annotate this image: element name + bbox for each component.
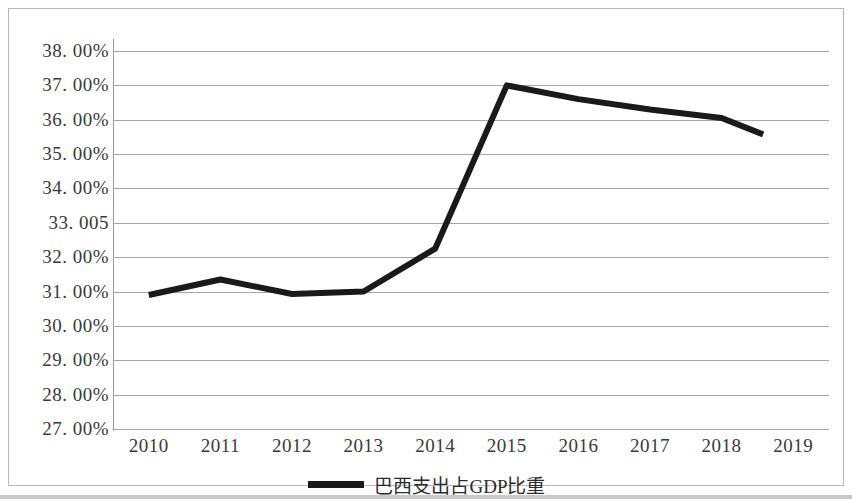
y-axis-tick-label: 34. 00% (42, 177, 109, 199)
y-axis-tick-label: 29. 00% (42, 349, 109, 371)
chart-legend: 巴西支出占GDP比重 (9, 471, 845, 498)
x-axis-tick-label: 2019 (773, 435, 813, 457)
y-axis-tick-label: 27. 00% (42, 418, 109, 440)
x-axis-tick-label: 2014 (415, 435, 455, 457)
y-axis-labels: 38. 00%37. 00%36. 00%35. 00%34. 00%33. 0… (9, 51, 109, 429)
y-axis-tick-label: 37. 00% (42, 74, 109, 96)
y-axis-tick-label: 33. 005 (49, 212, 110, 234)
y-axis-tick-label: 28. 00% (42, 384, 109, 406)
y-axis-tick-label: 38. 00% (42, 40, 109, 62)
legend-line-swatch (308, 481, 364, 488)
x-axis-tick-label: 2011 (201, 435, 240, 457)
x-axis-tick-label: 2017 (630, 435, 670, 457)
y-axis-tick-label: 36. 00% (42, 109, 109, 131)
chart-screenshot: 38. 00%37. 00%36. 00%35. 00%34. 00%33. 0… (0, 0, 852, 499)
x-axis-tick-label: 2018 (702, 435, 742, 457)
gridline (113, 429, 829, 430)
x-axis-tick-label: 2016 (558, 435, 598, 457)
x-axis-tick-label: 2013 (344, 435, 384, 457)
chart-frame: 38. 00%37. 00%36. 00%35. 00%34. 00%33. 0… (8, 8, 844, 486)
legend-label: 巴西支出占GDP比重 (374, 471, 545, 498)
y-axis-tick-label: 35. 00% (42, 143, 109, 165)
x-axis-tick-label: 2010 (129, 435, 169, 457)
data-series-line (113, 51, 829, 429)
y-axis-tick-label: 30. 00% (42, 315, 109, 337)
page-bottom-edge (0, 495, 852, 499)
plot-area (113, 51, 829, 429)
x-axis-labels: 2010201120122013201420152016201720182019 (113, 433, 829, 467)
y-axis-tick-label: 32. 00% (42, 246, 109, 268)
x-axis-tick-label: 2012 (272, 435, 312, 457)
y-axis-tick-label: 31. 00% (42, 281, 109, 303)
x-axis-tick-label: 2015 (487, 435, 527, 457)
